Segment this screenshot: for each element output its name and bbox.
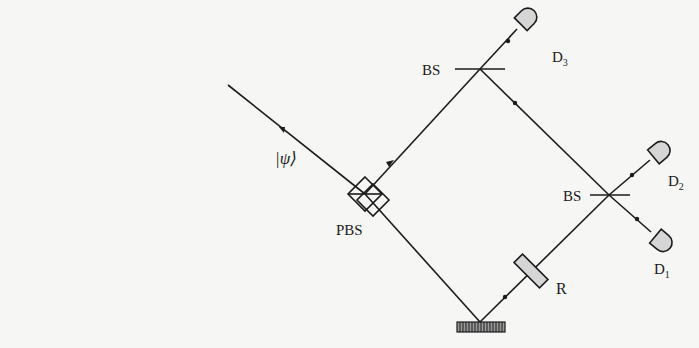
arrow-icon bbox=[513, 101, 517, 105]
beam-bsright-d1 bbox=[609, 195, 651, 232]
d2-label: D2 bbox=[668, 173, 684, 192]
pbs-label: PBS bbox=[336, 222, 363, 238]
arrow-icon bbox=[635, 217, 639, 221]
beam-bstop-d3 bbox=[480, 29, 517, 69]
input-state-label: |ψ⟩ bbox=[275, 149, 297, 168]
beam-mirror-bsright bbox=[480, 195, 609, 322]
d1-label: D1 bbox=[654, 261, 670, 280]
bs-top-label: BS bbox=[422, 62, 440, 78]
arrow-icon bbox=[279, 127, 285, 133]
arrow-icon bbox=[503, 295, 507, 299]
d3-label: D3 bbox=[552, 49, 568, 68]
mirror bbox=[457, 322, 505, 332]
detector-d1 bbox=[650, 229, 676, 255]
detector-d3 bbox=[514, 4, 540, 30]
arrow-icon bbox=[630, 173, 634, 177]
bs-right-label: BS bbox=[563, 188, 581, 204]
interferometer-diagram: |ψ⟩ PBS BS D3 bbox=[0, 0, 699, 348]
beam-bstop-bsright bbox=[480, 69, 609, 195]
input-beam bbox=[228, 85, 365, 194]
beam-pbs-bstop bbox=[365, 69, 480, 194]
beam-bsright-d2 bbox=[609, 160, 650, 195]
detector-d2 bbox=[648, 138, 674, 164]
retarder-label: R bbox=[556, 280, 567, 297]
